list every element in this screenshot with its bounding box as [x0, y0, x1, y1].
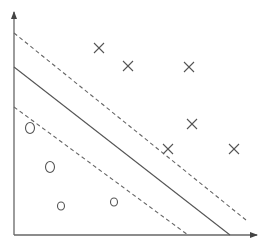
circle-marker-icon [58, 202, 65, 210]
decision-boundary-line [14, 67, 230, 235]
cross-marker-icon [123, 61, 133, 71]
lower-margin-line [14, 107, 188, 235]
svm-diagram [0, 0, 267, 247]
cross-marker-icon [94, 43, 104, 53]
positive-class-points [94, 43, 239, 154]
diagram-canvas [0, 0, 267, 247]
cross-marker-icon [163, 144, 173, 154]
circle-marker-icon [26, 123, 35, 134]
axes [14, 12, 257, 235]
cross-marker-icon [187, 119, 197, 129]
circle-marker-icon [46, 162, 55, 173]
cross-marker-icon [184, 62, 194, 72]
negative-class-points [26, 123, 118, 211]
circle-marker-icon [111, 198, 118, 206]
cross-marker-icon [229, 144, 239, 154]
